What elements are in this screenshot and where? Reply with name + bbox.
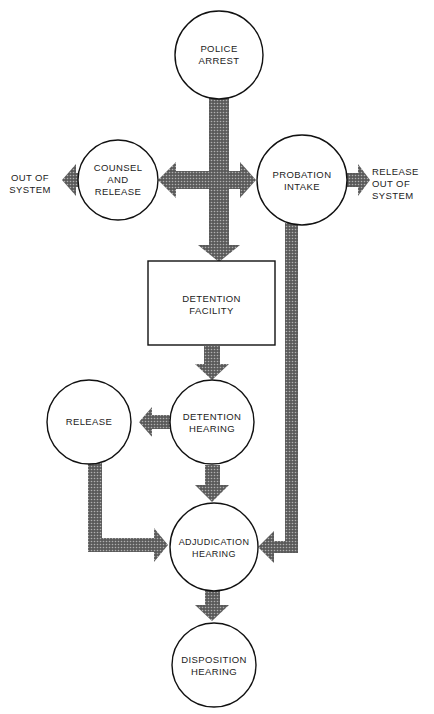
label-release-out-of-system: RELEASE OUT OF SYSTEM [372, 166, 432, 202]
arrow-detention-hearing-to-adjudication [195, 465, 229, 502]
label-counsel-and-release: COUNSEL AND RELEASE [78, 162, 158, 198]
label-detention-hearing: DETENTION HEARING [170, 411, 254, 435]
arrow-adjudication-to-disposition [195, 590, 229, 621]
arrow-detention-hearing-to-release [139, 407, 170, 437]
label-disposition-hearing: DISPOSITION HEARING [170, 654, 258, 678]
label-adjudication-hearing: ADJUDICATION HEARING [164, 536, 264, 560]
arrow-probation-to-release-out [347, 164, 370, 196]
label-probation-intake: PROBATION INTAKE [257, 169, 347, 193]
arrow-release-to-adjudication [88, 463, 168, 562]
label-detention-facility: DETENTION FACILITY [148, 293, 275, 317]
label-police-arrest: POLICE ARREST [175, 43, 263, 67]
arrow-facility-to-detention-hearing [195, 346, 229, 380]
label-out-of-system: OUT OF SYSTEM [2, 172, 58, 196]
label-release: RELEASE [47, 416, 131, 428]
flowchart-canvas [0, 0, 434, 714]
arrow-arrest-to-counsel-and-probation [158, 162, 256, 198]
